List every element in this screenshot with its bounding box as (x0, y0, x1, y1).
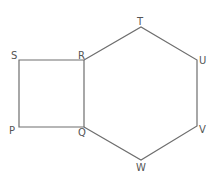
vertex-label-w: W (136, 162, 146, 173)
vertex-label-u: U (199, 55, 206, 66)
square-pqrs (19, 60, 84, 127)
vertex-label-q: Q (78, 127, 86, 138)
vertex-label-p: P (9, 125, 15, 136)
vertex-label-r: R (78, 50, 85, 61)
vertex-label-t: T (136, 16, 144, 27)
geometry-diagram: S R T U V W Q P (0, 0, 217, 180)
vertex-label-s: S (11, 50, 17, 61)
hexagon-rtuvwq (84, 27, 197, 160)
vertex-label-v: V (199, 124, 206, 135)
